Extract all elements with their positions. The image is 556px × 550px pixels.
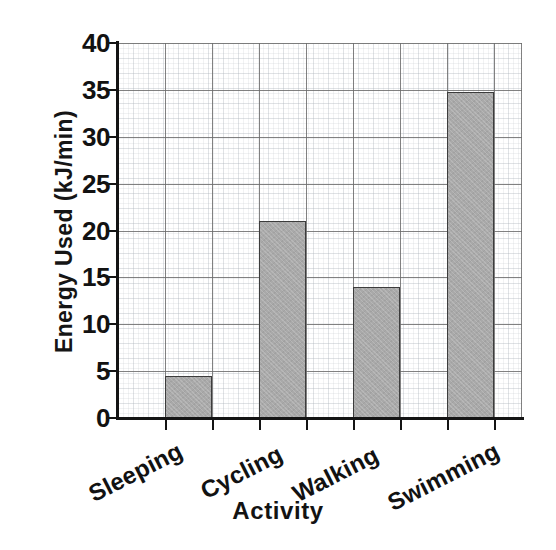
y-tick-mark-35 <box>106 89 118 91</box>
x-tick-mark-1 <box>165 419 167 430</box>
y-tick-mark-30 <box>106 136 118 138</box>
gridline-x-4 <box>306 43 307 418</box>
gridline-y-40 <box>118 43 522 44</box>
x-tick-mark-2 <box>212 419 214 430</box>
y-tick-label-20: 20 <box>64 218 110 244</box>
y-tick-label-30: 30 <box>64 124 110 150</box>
y-axis-tick-labels: 40 35 30 25 20 15 10 5 0 <box>62 0 110 550</box>
y-tick-mark-15 <box>106 276 118 278</box>
y-tick-label-5: 5 <box>64 358 110 384</box>
plot-area <box>118 43 522 418</box>
gridline-x-2 <box>212 43 213 418</box>
y-tick-mark-5 <box>106 370 118 372</box>
gridline-x-1 <box>165 43 166 418</box>
bar-swimming[interactable] <box>447 92 494 418</box>
bar-texture <box>260 222 305 417</box>
bar-chart-figure: Energy Used (kJ/min) 40 35 30 25 20 15 1… <box>0 0 556 550</box>
x-tick-mark-8 <box>494 419 496 430</box>
x-tick-mark-5 <box>353 419 355 430</box>
bar-cycling[interactable] <box>259 221 306 418</box>
bar-texture <box>166 377 211 417</box>
gridline-x-9 <box>521 43 522 418</box>
y-tick-label-40: 40 <box>64 30 110 56</box>
gridline-x-6 <box>400 43 401 418</box>
x-tick-label-cycling: Cycling <box>196 440 287 505</box>
y-tick-mark-10 <box>106 323 118 325</box>
bar-texture <box>448 93 493 417</box>
bar-sleeping[interactable] <box>165 376 212 418</box>
y-tick-label-15: 15 <box>64 264 110 290</box>
x-tick-mark-7 <box>447 419 449 430</box>
y-tick-label-10: 10 <box>64 311 110 337</box>
x-axis-line <box>116 417 524 420</box>
x-tick-mark-6 <box>400 419 402 430</box>
y-tick-label-0: 0 <box>64 405 110 431</box>
y-tick-mark-25 <box>106 183 118 185</box>
y-tick-mark-40 <box>106 42 118 44</box>
x-axis-title: Activity <box>0 497 556 525</box>
bar-texture <box>354 288 399 417</box>
y-tick-label-25: 25 <box>64 171 110 197</box>
y-tick-mark-0 <box>106 417 118 419</box>
x-tick-mark-3 <box>259 419 261 430</box>
x-tick-mark-4 <box>306 419 308 430</box>
y-tick-mark-20 <box>106 230 118 232</box>
gridline-x-8 <box>494 43 495 418</box>
y-tick-label-35: 35 <box>64 77 110 103</box>
bar-walking[interactable] <box>353 287 400 418</box>
